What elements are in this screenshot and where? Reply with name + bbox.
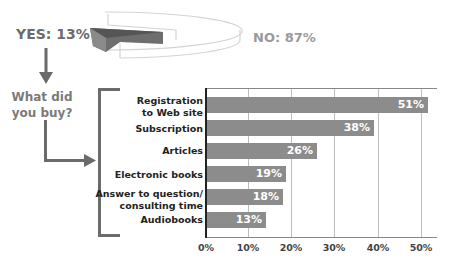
category-label: Electronic books bbox=[115, 169, 203, 181]
pie-yes-label: YES: 13% bbox=[16, 26, 90, 42]
bar-value: 18% bbox=[253, 190, 279, 203]
bar: 18% bbox=[207, 189, 283, 205]
category-label: Answer to question/ consulting time bbox=[95, 188, 203, 212]
arrow-down-icon bbox=[38, 48, 54, 86]
pie-no-label: NO: 87% bbox=[253, 30, 316, 45]
x-tick-label: 0% bbox=[191, 242, 221, 253]
x-tick-label: 30% bbox=[319, 242, 349, 253]
x-tick-label: 20% bbox=[276, 242, 306, 253]
x-tick-label: 50% bbox=[406, 242, 436, 253]
chart-top-line bbox=[206, 88, 437, 89]
question-label: What did you buy? bbox=[10, 89, 74, 121]
category-label: Subscription bbox=[135, 123, 203, 135]
bar: 51% bbox=[207, 97, 428, 113]
bar-value: 19% bbox=[256, 167, 282, 180]
bar-value: 13% bbox=[236, 213, 262, 226]
category-label: Articles bbox=[162, 145, 203, 157]
x-tick-label: 10% bbox=[233, 242, 263, 253]
bar: 38% bbox=[207, 120, 374, 136]
bar-value: 38% bbox=[344, 121, 370, 134]
bar: 19% bbox=[207, 166, 286, 182]
x-axis bbox=[206, 237, 437, 238]
bracket bbox=[96, 88, 126, 238]
category-label: Audiobooks bbox=[140, 214, 203, 226]
category-label: Registration to Web site bbox=[137, 95, 203, 119]
arrow-right-icon bbox=[40, 120, 100, 170]
bar-value: 51% bbox=[398, 98, 424, 111]
bar: 13% bbox=[207, 212, 266, 228]
x-tick-label: 40% bbox=[363, 242, 393, 253]
bar: 26% bbox=[207, 143, 317, 159]
bar-value: 26% bbox=[287, 144, 313, 157]
